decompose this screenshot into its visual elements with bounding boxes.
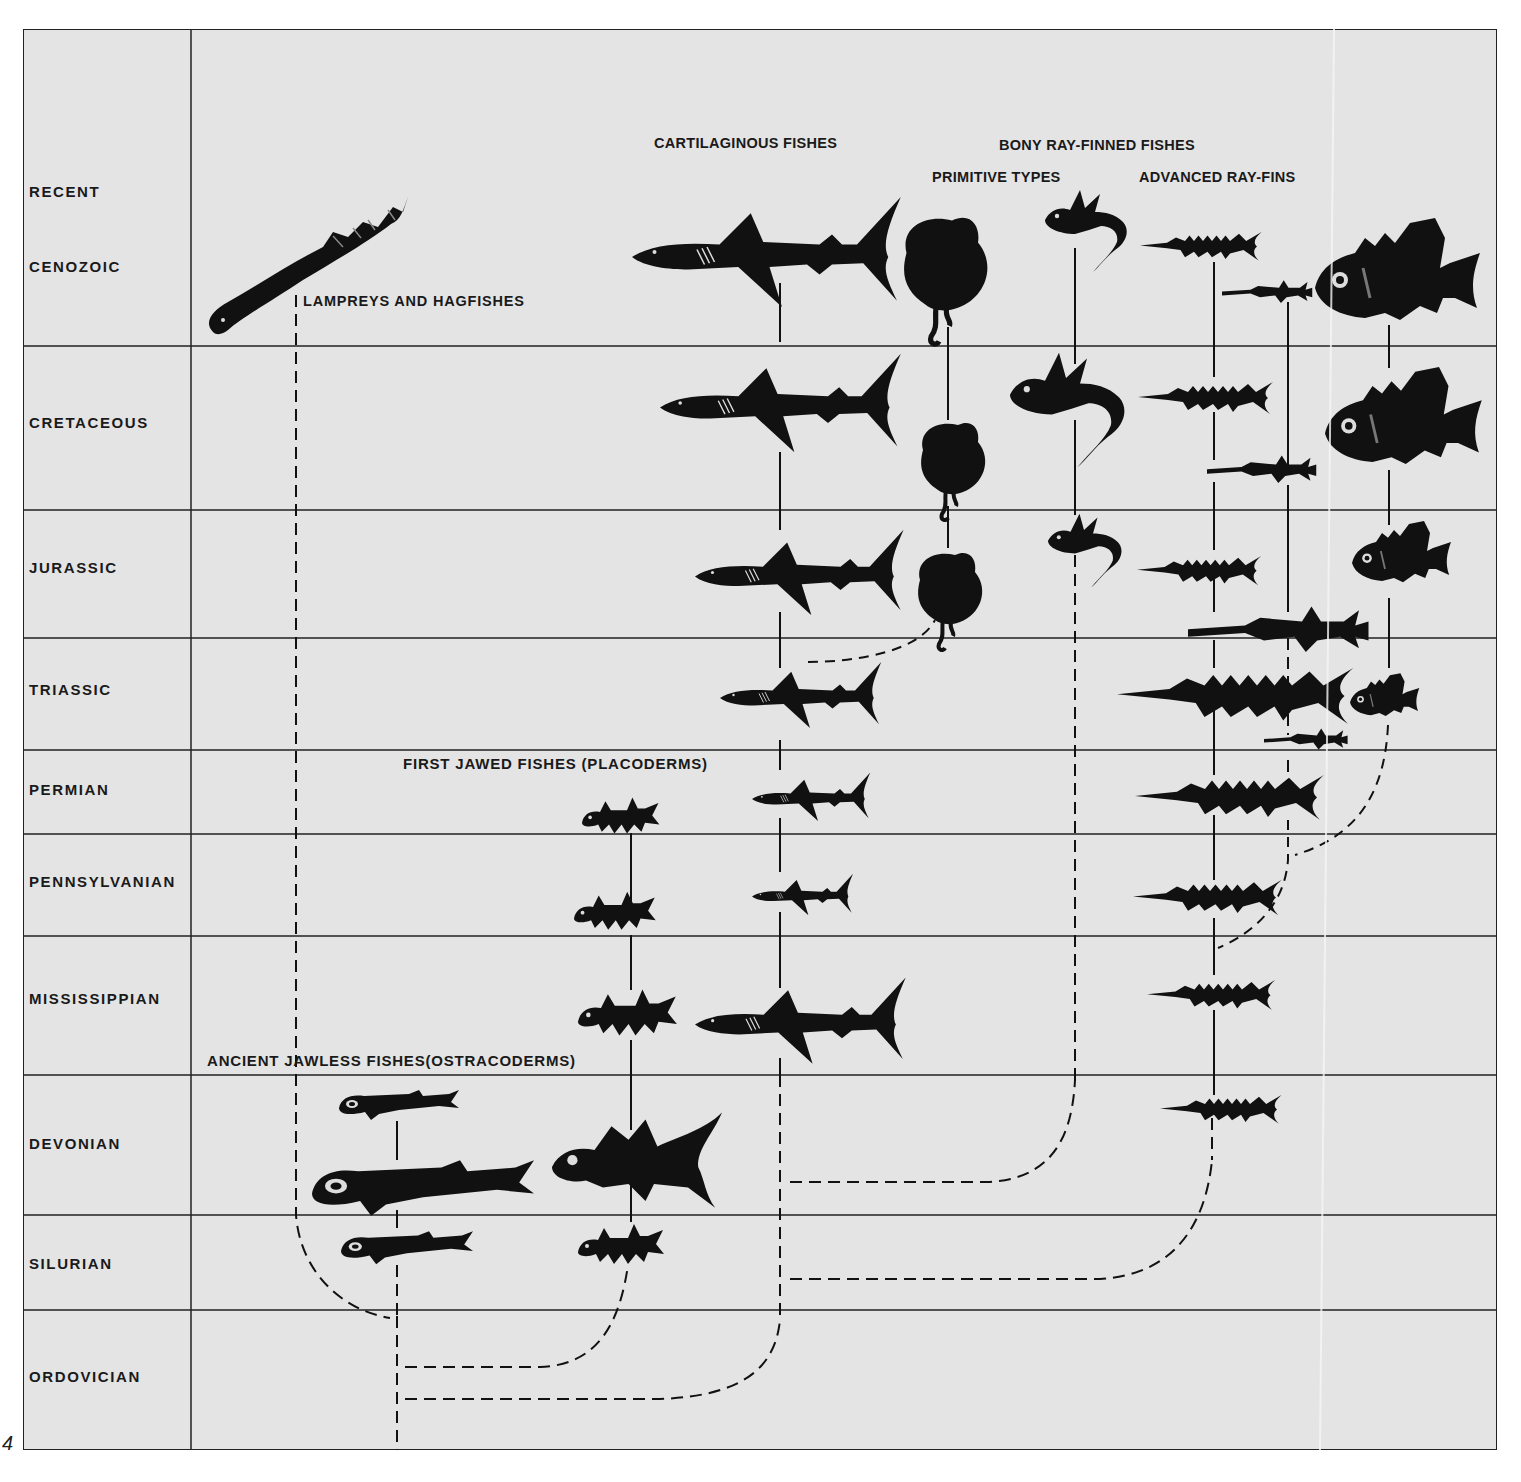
ray-cretaceous-icon xyxy=(921,423,985,520)
group-label-placoderms: FIRST JAWED FISHES (PLACODERMS) xyxy=(403,755,708,772)
gar-jurassic-icon xyxy=(1188,606,1369,652)
lineage-lines xyxy=(296,248,1389,1450)
placoderm-mississippian-icon xyxy=(578,990,677,1036)
period-label-jurassic: JURASSIC xyxy=(29,559,118,576)
placoderm-devonian-icon xyxy=(552,1113,722,1208)
placoderm-branch-line xyxy=(405,1265,628,1367)
perch-triassic-icon xyxy=(1350,673,1419,716)
shark-permian-icon xyxy=(752,773,870,821)
perch-cretaceous-icon xyxy=(1325,367,1482,464)
sturgeon-permian-icon xyxy=(1135,775,1324,820)
chimaera-jurassic-icon xyxy=(1048,514,1122,588)
period-label-silurian: SILURIAN xyxy=(29,1255,113,1272)
shark-cenozoic-icon xyxy=(632,197,901,307)
period-label-pennsylvanian: PENNSYLVANIAN xyxy=(29,873,176,890)
period-label-permian: PERMIAN xyxy=(29,781,109,798)
gar-cenozoic-icon xyxy=(1222,280,1312,303)
period-label-mississippian: MISSISSIPPIAN xyxy=(29,990,161,1007)
placoderm-pennsylvanian-icon xyxy=(574,892,656,930)
ray-branch-line xyxy=(808,620,935,662)
sturgeon-pennsylvanian-icon xyxy=(1133,880,1282,915)
lamprey-icon xyxy=(209,197,408,334)
sturgeon-cenozoic-icon xyxy=(1140,232,1262,261)
perch-cenozoic-icon xyxy=(1315,218,1480,320)
period-label-cenozoic: CENOZOIC xyxy=(29,258,121,275)
period-label-recent: RECENT xyxy=(29,183,100,200)
ray-jurassic-icon xyxy=(918,553,982,650)
chimaera-cenozoic-icon xyxy=(1045,190,1127,272)
primitive-types-branch-line xyxy=(790,1080,1075,1182)
page-number: 4 xyxy=(2,1432,13,1455)
gar-cretaceous-icon xyxy=(1207,455,1316,483)
jawed-fish-branch-line xyxy=(405,1320,780,1399)
group-label-advanced-ray-fins: ADVANCED RAY-FINS xyxy=(1139,169,1296,185)
chimaera-cretaceous-icon xyxy=(1010,353,1124,468)
shark-mississippian-icon xyxy=(695,978,906,1064)
group-label-ostracoderms: ANCIENT JAWLESS FISHES(OSTRACODERMS) xyxy=(207,1052,576,1069)
ostracoderm-silurian-icon xyxy=(341,1231,473,1264)
ostracoderm-devonian-large-icon xyxy=(312,1160,534,1216)
ostracoderm-devonian-small-icon xyxy=(339,1090,459,1120)
gar-triassic-icon xyxy=(1264,728,1348,749)
perch-jurassic-icon xyxy=(1352,521,1451,582)
lamprey-lineage-line xyxy=(296,295,390,1318)
shark-jurassic-icon xyxy=(695,530,904,615)
chart-graphics xyxy=(0,0,1521,1482)
group-label-lampreys: LAMPREYS AND HAGFISHES xyxy=(303,293,525,309)
placoderm-permian-icon xyxy=(582,798,659,834)
group-label-bony-ray-finned: BONY RAY-FINNED FISHES xyxy=(999,137,1195,153)
shark-pennsylvanian-icon xyxy=(752,874,853,915)
period-label-cretaceous: CRETACEOUS xyxy=(29,414,149,431)
group-label-cartilaginous: CARTILAGINOUS FISHES xyxy=(654,135,837,151)
period-label-ordovician: ORDOVICIAN xyxy=(29,1368,141,1385)
sturgeon-mississippian-icon xyxy=(1147,980,1275,1010)
period-row-dividers xyxy=(23,346,1497,1310)
sturgeon-triassic-icon xyxy=(1117,668,1353,724)
bony-fish-branch-line xyxy=(790,1160,1212,1279)
ray-cenozoic-icon xyxy=(904,218,987,344)
fish-evolution-chart: RECENT CENOZOIC CRETACEOUS JURASSIC TRIA… xyxy=(0,0,1521,1482)
period-label-devonian: DEVONIAN xyxy=(29,1135,121,1152)
placoderm-silurian-icon xyxy=(578,1224,664,1264)
sturgeon-jurassic-icon xyxy=(1137,556,1261,585)
shark-triassic-icon xyxy=(720,662,881,728)
sturgeon-cretaceous-icon xyxy=(1138,382,1273,414)
period-label-triassic: TRIASSIC xyxy=(29,681,112,698)
group-label-primitive-types: PRIMITIVE TYPES xyxy=(932,169,1061,185)
sturgeon-devonian-icon xyxy=(1160,1095,1282,1124)
shark-cretaceous-icon xyxy=(660,354,901,453)
